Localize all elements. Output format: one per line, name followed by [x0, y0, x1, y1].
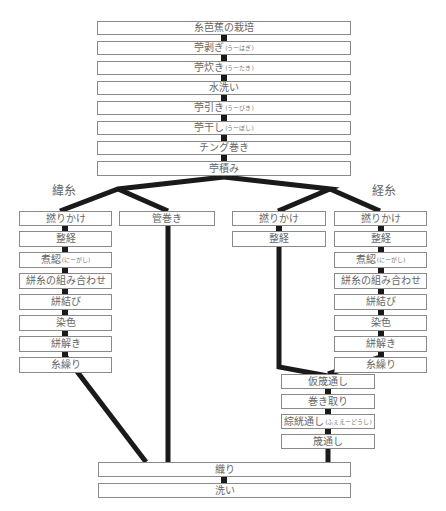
step-label: 管巻き [152, 214, 182, 224]
warp-b-step: 煮綛(にーがし) [334, 252, 427, 268]
step-u-taki: 苧炊き(うーたき) [97, 61, 351, 75]
step-label: 煮綛 [356, 255, 376, 265]
step-label: 苧積み [209, 164, 239, 174]
step-label: 苧剥ぎ [194, 43, 224, 53]
step-u-hagi: 苧剥ぎ(うーはぎ) [97, 41, 351, 55]
step-label: 苧干し [194, 123, 224, 133]
step-label: 整経 [269, 234, 289, 244]
step-label: 糸繰り [366, 360, 396, 370]
step-washing: 洗い [98, 483, 351, 498]
step-label: 撚りかけ [361, 214, 401, 224]
step-label: 仮筬通し [308, 377, 348, 387]
step-label: 整経 [371, 234, 391, 244]
weft-a-step: 絣解き [19, 336, 112, 352]
step-u-biki: 苧引き(うーびき) [97, 101, 351, 115]
warp-merged-step: 巻き取り [281, 394, 375, 409]
step-label: 糸芭蕉の栽培 [194, 23, 254, 33]
warp-b-step: 絣解き [334, 336, 427, 352]
warp-b-step: 染色 [334, 315, 427, 331]
warp-b-step: 整経 [334, 231, 427, 247]
warp-a-step: 整経 [232, 231, 326, 247]
step-label: 洗い [215, 486, 235, 496]
step-weaving: 織り [98, 462, 351, 477]
weft-a-step: 絣糸の組み合わせ [19, 273, 112, 289]
step-water-wash: 水洗い [97, 81, 351, 95]
step-reading: (にーがし) [377, 257, 406, 263]
warp-merged-step: 仮筬通し [281, 374, 375, 389]
weft-label: 緯糸 [52, 181, 76, 198]
warp-b-step: 糸繰り [334, 357, 427, 373]
weft-a-step: 整経 [19, 231, 112, 247]
step-reading: (うーたき) [225, 65, 254, 71]
weft-a-step: 糸繰り [19, 357, 112, 373]
step-label: 巻き取り [308, 397, 348, 407]
step-reading: (にーがし) [62, 257, 91, 263]
step-label: 筬通し [313, 437, 343, 447]
warp-label: 経糸 [372, 181, 396, 198]
step-label: 苧引き [194, 103, 224, 113]
step-u-boshi: 苧干し(うーぼし) [97, 121, 351, 135]
step-label: 絣糸の組み合わせ [341, 276, 421, 286]
step-reading: (うーはぎ) [225, 45, 254, 51]
weft-b-step: 管巻き [119, 211, 215, 226]
step-label: 撚りかけ [46, 214, 86, 224]
step-label: 絣結び [51, 297, 81, 307]
step-label: 苧炊き [194, 63, 224, 73]
step-label: 水洗い [209, 83, 239, 93]
step-reading: (ふぇえーどうし) [325, 419, 372, 425]
step-chingu-maki: チング巻き [97, 141, 351, 155]
step-label: 綜絖通し [284, 417, 324, 427]
warp-b-step: 撚りかけ [334, 211, 427, 226]
step-label: 染色 [371, 318, 391, 328]
step-label: 煮綛 [41, 255, 61, 265]
step-cultivation: 糸芭蕉の栽培 [97, 21, 351, 35]
step-label: 絣糸の組み合わせ [26, 276, 106, 286]
step-reading: (うーびき) [225, 105, 254, 111]
step-label: チング巻き [199, 143, 249, 153]
step-label: 絣結び [366, 297, 396, 307]
step-label: 織り [215, 465, 235, 475]
warp-merged-step: 綜絖通し(ふぇえーどうし) [281, 414, 375, 429]
warp-b-step: 絣糸の組み合わせ [334, 273, 427, 289]
step-label: 絣解き [366, 339, 396, 349]
weft-a-step: 絣結び [19, 294, 112, 310]
step-label: 糸繰り [51, 360, 81, 370]
weft-a-step: 染色 [19, 315, 112, 331]
step-label: 染色 [56, 318, 76, 328]
weft-a-step: 撚りかけ [19, 211, 112, 226]
step-u-umi: 苧積み [97, 161, 351, 176]
step-label: 撚りかけ [259, 214, 299, 224]
warp-merged-step: 筬通し [281, 434, 375, 449]
warp-b-step: 絣結び [334, 294, 427, 310]
weft-a-step: 煮綛(にーがし) [19, 252, 112, 268]
step-label: 整経 [56, 234, 76, 244]
warp-a-step: 撚りかけ [232, 211, 326, 226]
step-label: 絣解き [51, 339, 81, 349]
step-reading: (うーぼし) [225, 125, 254, 131]
